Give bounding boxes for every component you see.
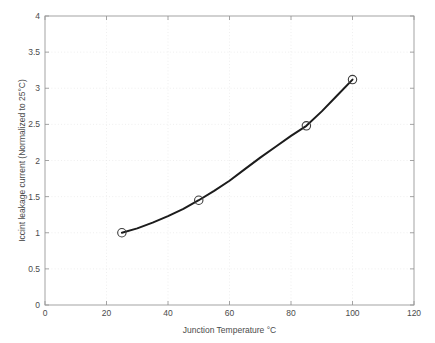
x-tick-label: 120 — [407, 308, 421, 318]
y-tick-label: 4 — [35, 11, 40, 21]
y-tick-label: 0 — [35, 300, 40, 310]
y-axis-title: Iccint leakage current (Normalized to 25… — [17, 79, 27, 242]
y-tick-label: 3 — [35, 83, 40, 93]
chart-background — [0, 0, 435, 343]
y-tick-label: 3.5 — [28, 47, 40, 57]
x-tick-label: 0 — [43, 308, 48, 318]
x-tick-label: 100 — [345, 308, 359, 318]
x-axis-title: Junction Temperature °C — [183, 325, 276, 335]
x-tick-label: 40 — [163, 308, 173, 318]
y-tick-label: 2.5 — [28, 119, 40, 129]
y-tick-label: 0.5 — [28, 264, 40, 274]
y-tick-label: 2 — [35, 156, 40, 166]
y-tick-label: 1.5 — [28, 192, 40, 202]
chart-figure: 020406080100120 00.511.522.533.54 Juncti… — [0, 0, 435, 343]
x-tick-label: 60 — [225, 308, 235, 318]
leakage-current-vs-temperature-chart: 020406080100120 00.511.522.533.54 Juncti… — [0, 0, 435, 343]
x-tick-label: 80 — [286, 308, 296, 318]
x-tick-label: 20 — [102, 308, 112, 318]
y-tick-label: 1 — [35, 228, 40, 238]
